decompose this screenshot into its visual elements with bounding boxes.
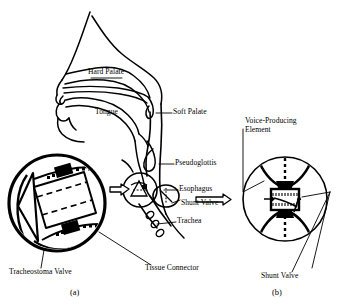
label-hard-palate: Hard Palate — [88, 68, 124, 77]
leader-tissue-connector — [99, 232, 151, 265]
anatomical-figure: Hard Palate Tongue Soft Palate Pseudoglo… — [0, 0, 342, 307]
diagram-artwork — [0, 0, 342, 307]
tongue-outline — [66, 98, 139, 141]
block-arrow-left-icon — [110, 184, 129, 195]
label-shunt-valve-b: Shunt Valve — [261, 272, 298, 281]
label-pseudoglottis: Pseudoglottis — [175, 159, 217, 168]
shunt-source-ellipse — [153, 185, 179, 207]
lip-and-jaw — [56, 96, 84, 142]
panel-letter-b: (b) — [272, 288, 282, 297]
label-voice-producing-element-line2: Element — [245, 126, 271, 135]
label-trachea: Trachea — [177, 217, 202, 226]
label-tracheostoma-valve: Tracheostoma Valve — [9, 268, 72, 277]
detail-circle-a — [9, 155, 105, 251]
head-profile-outline — [56, 12, 162, 104]
label-esophagus: Esophagus — [179, 185, 212, 194]
label-tissue-connector: Tissue Connector — [145, 264, 199, 273]
label-shunt-valve: Shunt Valve — [181, 199, 218, 208]
label-soft-palate: Soft Palate — [173, 108, 207, 117]
leader-trachea — [157, 222, 176, 224]
panel-letter-a: (a) — [70, 288, 79, 297]
leader-tracheostoma-valve — [41, 250, 44, 268]
label-tongue: Tongue — [95, 108, 118, 117]
hard-palate-structure — [63, 87, 148, 104]
detail-circle-b — [243, 157, 327, 241]
